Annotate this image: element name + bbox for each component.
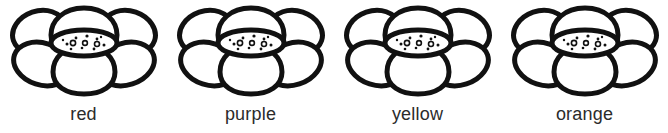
flower-label: red: [70, 103, 97, 125]
flower-item: yellow: [334, 0, 501, 133]
flower-color-word-row: red: [0, 0, 668, 133]
flower-item: orange: [501, 0, 668, 133]
flower-label: purple: [225, 103, 276, 125]
flower-item: purple: [167, 0, 334, 133]
flower-icon: [510, 2, 660, 99]
flower-label: orange: [556, 103, 613, 125]
flower-icon: [176, 2, 326, 99]
flower-item: red: [0, 0, 167, 133]
flower-icon: [9, 2, 159, 99]
flower-icon: [343, 2, 493, 99]
flower-label: yellow: [392, 103, 443, 125]
